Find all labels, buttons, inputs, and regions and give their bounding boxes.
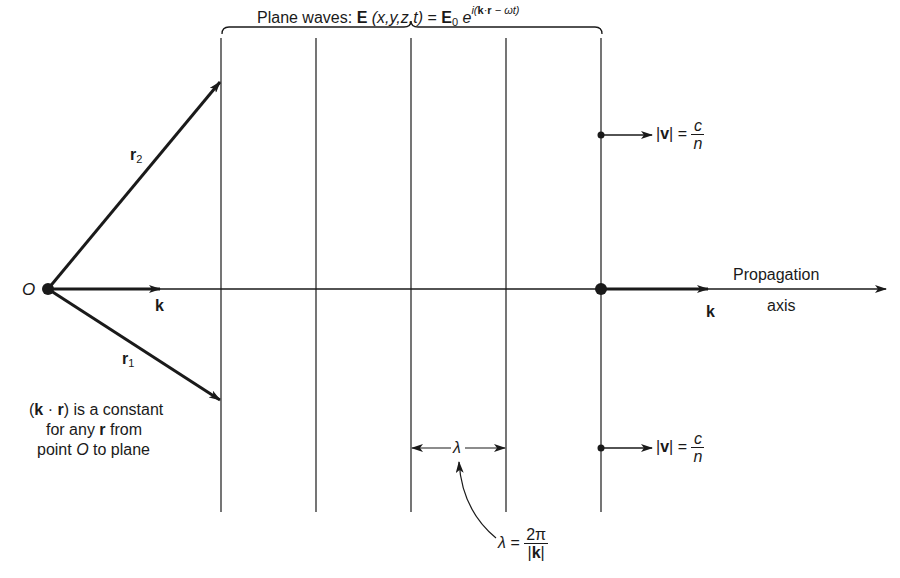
- note-line2: for any r from: [46, 422, 142, 438]
- wavelength-symbol: λ: [452, 440, 462, 456]
- wl-den-close: |: [541, 544, 545, 561]
- title-E0-sub: 0: [452, 16, 458, 28]
- wavelength-pointer-arrow: [459, 462, 496, 538]
- r1-sub: 1: [128, 357, 134, 369]
- origin-point: [42, 283, 54, 295]
- note3-post: to plane: [89, 441, 150, 458]
- vel-num: c: [691, 118, 704, 135]
- note2-post: from: [106, 421, 142, 438]
- note-rest: ) is a constant: [64, 401, 164, 418]
- r1-vector-arrow: [48, 289, 220, 400]
- vel-den: n: [691, 135, 704, 152]
- note2-pre: for any: [46, 421, 99, 438]
- propagation-label-line1: Propagation: [733, 267, 819, 283]
- title-E0-base: E: [441, 9, 452, 26]
- vel-close: |: [669, 125, 673, 142]
- wl-den: |k|: [524, 544, 548, 561]
- title-prefix: Plane waves:: [257, 9, 352, 26]
- r2-sub: 2: [136, 153, 142, 165]
- vel-v: v: [660, 438, 669, 455]
- title-args: (x,y,z,t): [372, 9, 423, 26]
- velocity-fraction: cn: [691, 118, 704, 152]
- note-k: k: [34, 401, 43, 418]
- velocity-label-bottom: |v| = cn: [656, 431, 704, 465]
- k-label-plane: k: [706, 304, 715, 320]
- velocity-label-top: |v| = cn: [656, 118, 704, 152]
- note3-pre: point: [37, 441, 76, 458]
- note-line1: (k · r) is a constant: [29, 402, 163, 418]
- vel-eq: =: [678, 438, 687, 455]
- title-eq: =: [427, 9, 436, 26]
- r2-label: r2: [130, 147, 142, 165]
- k-label-origin: k: [155, 298, 164, 314]
- velocity-fraction: cn: [691, 431, 704, 465]
- plane-wave-diagram: [0, 0, 900, 578]
- wl-lhs: λ =: [498, 534, 520, 551]
- wl-num: 2π: [524, 527, 548, 544]
- exp-rest: − ωt): [492, 4, 520, 16]
- wavelength-fraction: 2π|k|: [524, 527, 548, 561]
- origin-label: O: [22, 281, 35, 298]
- wavefronts: [221, 38, 601, 512]
- vel-den: n: [691, 448, 704, 465]
- title-E0: E0: [441, 9, 458, 26]
- plane-axis-point: [595, 283, 607, 295]
- wavelength-formula: λ = 2π|k|: [498, 527, 548, 561]
- vel-close: |: [669, 438, 673, 455]
- r2-vector-arrow: [48, 82, 220, 289]
- vel-v: v: [660, 125, 669, 142]
- vel-num: c: [691, 431, 704, 448]
- r1-label: r1: [122, 351, 134, 369]
- diagram-title: Plane waves: E (x,y,z,t) = E0 ei(k·r − ω…: [257, 5, 519, 28]
- title-exponent: i(k·r − ωt): [471, 4, 519, 16]
- note-line3: point O to plane: [37, 442, 150, 458]
- propagation-label-line2: axis: [767, 298, 795, 314]
- note3-O: O: [76, 441, 88, 458]
- note-dot: ·: [43, 401, 57, 418]
- wl-den-k: k: [532, 544, 541, 561]
- vel-eq: =: [678, 125, 687, 142]
- title-E: E: [357, 9, 368, 26]
